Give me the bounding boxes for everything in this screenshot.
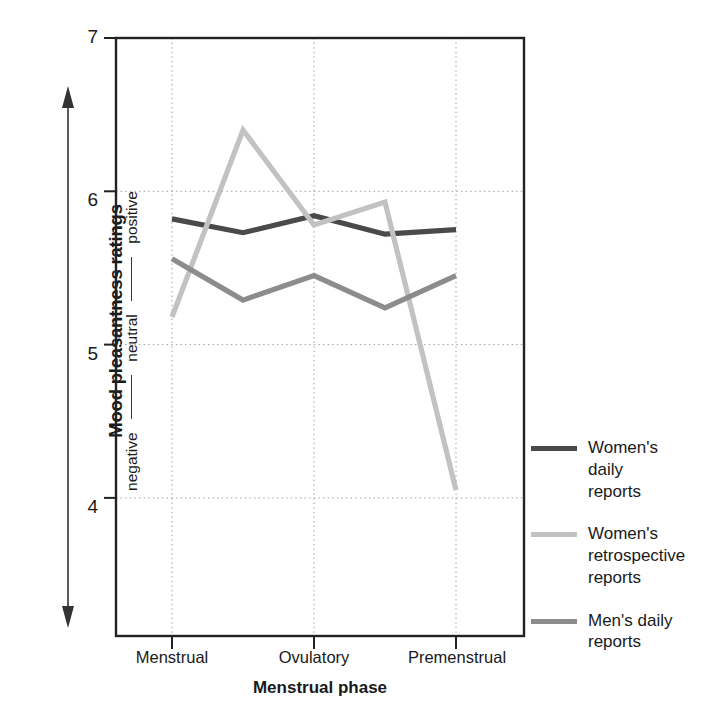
plot-frame <box>116 38 524 636</box>
x-tick-label-menstrual: Menstrual <box>136 648 208 667</box>
x-tick-label-premenstrual: Premenstrual <box>408 648 506 667</box>
x-tick-label-ovulatory: Ovulatory <box>279 648 350 667</box>
x-axis-title: Menstrual phase <box>110 678 530 698</box>
legend-label-mens-daily: Men's daily reports <box>588 610 673 654</box>
y-axis-direction-arrow <box>62 86 74 628</box>
legend-swatch-womens-retrospective <box>531 532 577 537</box>
legend-item-womens-daily: Women's daily reports <box>531 437 721 502</box>
gridlines <box>116 38 524 636</box>
legend-label-womens-daily: Women's daily reports <box>588 437 658 502</box>
legend-label-womens-retrospective: Women's retrospective reports <box>588 523 685 588</box>
axis-ticks <box>104 38 456 649</box>
legend-swatch-mens-daily <box>531 619 577 624</box>
chart-figure: Mood pleasantness ratings negative neutr… <box>0 0 724 718</box>
legend-swatch-womens-daily <box>531 446 577 451</box>
legend-item-mens-daily: Men's daily reports <box>531 610 721 654</box>
chart-legend: Women's daily reports Women's retrospect… <box>531 437 721 674</box>
legend-item-womens-retrospective: Women's retrospective reports <box>531 523 721 588</box>
